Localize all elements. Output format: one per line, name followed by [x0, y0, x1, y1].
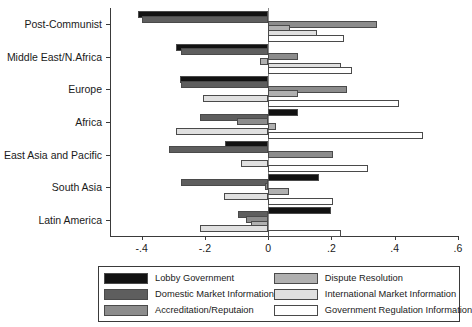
bar [268, 132, 423, 139]
x-tick-mark [395, 236, 396, 240]
x-tick-label: 0 [265, 242, 271, 254]
x-tick-label: .2 [327, 242, 336, 254]
x-tick-label: -.2 [199, 242, 211, 254]
bar [268, 198, 333, 205]
bar [224, 193, 268, 200]
legend-swatch-mid-gray [104, 305, 148, 316]
y-tick-mark [106, 57, 110, 58]
bar [260, 58, 268, 65]
y-axis-category-label: Latin America [38, 214, 102, 226]
legend-item: International Market Information [274, 286, 472, 302]
y-tick-mark [106, 24, 110, 25]
legend-label: International Market Information [325, 289, 456, 299]
bar [241, 160, 268, 167]
legend: Lobby GovernmentDispute ResolutionDomest… [98, 266, 460, 322]
bar [268, 90, 298, 97]
y-tick-mark [106, 187, 110, 188]
bar [268, 207, 331, 214]
y-tick-mark [106, 89, 110, 90]
legend-label: Government Regulation Information [325, 305, 472, 315]
bar [169, 146, 269, 153]
bar [237, 118, 269, 125]
bar [268, 67, 352, 74]
x-tick-mark [458, 236, 459, 240]
bar [181, 81, 268, 88]
bar [142, 16, 269, 23]
y-axis-category-label: Europe [68, 83, 102, 95]
legend-item: Domestic Market Information [104, 286, 274, 302]
legend-item: Government Regulation Information [274, 302, 472, 318]
y-axis-category-label: Middle East/N.Africa [7, 51, 102, 63]
legend-item: Dispute Resolution [274, 270, 472, 286]
bar [268, 174, 319, 181]
bar [268, 123, 276, 130]
bar [181, 48, 268, 55]
y-axis-category-label: Africa [75, 116, 102, 128]
y-axis-category-label: East Asia and Pacific [4, 149, 102, 161]
bar [268, 165, 368, 172]
bar [200, 225, 268, 232]
legend-swatch-very-light-gray [274, 289, 318, 300]
bar [268, 35, 344, 42]
legend-label: Lobby Government [155, 273, 234, 283]
legend-label: Accreditation/Reputaion [155, 305, 254, 315]
y-tick-mark [106, 220, 110, 221]
bar [268, 151, 333, 158]
y-axis-line [110, 8, 111, 236]
legend-label: Dispute Resolution [325, 273, 403, 283]
plot-area: -.4-.20.2.4.6 Post-CommunistMiddle East/… [110, 8, 458, 236]
bar [268, 188, 289, 195]
bar [268, 100, 399, 107]
legend-swatch-white [274, 305, 318, 316]
y-axis-category-label: South Asia [52, 181, 102, 193]
x-tick-label: .6 [454, 242, 463, 254]
bar [176, 128, 268, 135]
x-tick-mark [205, 236, 206, 240]
legend-swatch-black [104, 273, 148, 284]
legend-label: Domestic Market Information [155, 289, 274, 299]
bar [203, 95, 268, 102]
legend-item: Accreditation/Reputaion [104, 302, 274, 318]
y-tick-mark [106, 122, 110, 123]
x-tick-label: -.4 [135, 242, 147, 254]
bar [268, 53, 298, 60]
y-axis-category-label: Post-Communist [24, 18, 102, 30]
bar [268, 230, 341, 237]
legend-item: Lobby Government [104, 270, 274, 286]
x-tick-mark [142, 236, 143, 240]
legend-swatch-light-gray [274, 273, 318, 284]
legend-swatch-dark-gray [104, 289, 148, 300]
y-tick-mark [106, 155, 110, 156]
bar [268, 109, 298, 116]
bar [181, 179, 268, 186]
x-tick-label: .4 [390, 242, 399, 254]
